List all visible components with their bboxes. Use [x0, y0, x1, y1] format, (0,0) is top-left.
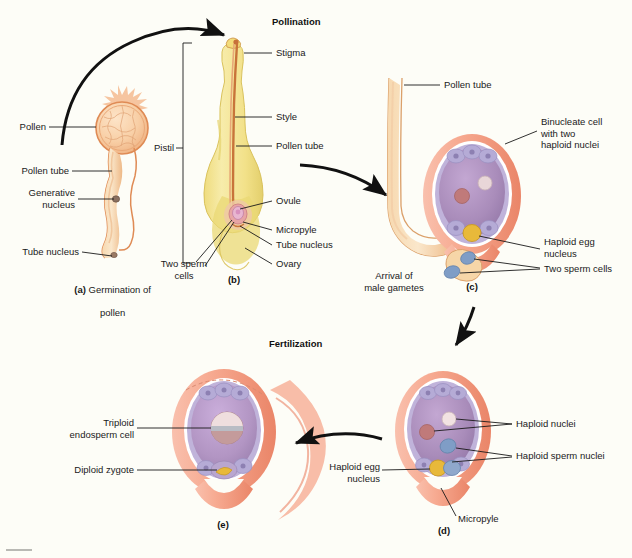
heading-pollination: Pollination — [272, 16, 321, 27]
panel-marker-a: (a) — [74, 284, 86, 295]
caption-panel-a-text: Germination of — [86, 284, 151, 295]
label-binucleate-cell: Binucleate cell with two haploid nuclei — [541, 116, 631, 151]
label-pistil: Pistil — [134, 142, 174, 154]
haploid-nucleus-c-2 — [455, 189, 470, 204]
haploid-nucleus-d-2 — [420, 425, 435, 440]
label-pollen-tube-b: Pollen tube — [276, 140, 324, 152]
label-stigma: Stigma — [276, 47, 306, 59]
label-tube-nucleus-b: Tube nucleus — [276, 239, 333, 251]
label-arrival-of-male-gametes: Arrival of male gametes — [352, 270, 436, 293]
tube-nucleus-marker — [111, 252, 117, 257]
label-haploid-egg-nucleus-d: Haploid egg nucleus — [288, 461, 380, 484]
panel-marker-c: (c) — [448, 281, 496, 292]
caption-panel-a-line2: pollen — [100, 307, 125, 318]
embryo-sac-d — [411, 385, 475, 469]
label-haploid-sperm-nuclei: Haploid sperm nuclei — [516, 450, 605, 462]
triploid-endosperm-cell-e — [211, 412, 243, 444]
label-ovule: Ovule — [276, 195, 301, 207]
label-ovary: Ovary — [276, 258, 301, 270]
label-two-sperm-cells-c: Two sperm cells — [544, 263, 612, 275]
label-pollen-tube: Pollen tube — [0, 165, 69, 177]
label-style: Style — [276, 111, 297, 123]
label-generative-nucleus: Generative nucleus — [0, 187, 75, 210]
panel-marker-e: (e) — [200, 519, 246, 530]
label-pollen: Pollen — [0, 121, 46, 133]
heading-fertilization: Fertilization — [269, 338, 322, 349]
pollen-on-stigma — [233, 39, 238, 44]
haploid-sperm-nucleus-d-2 — [444, 461, 461, 476]
label-micropyle: Micropyle — [276, 224, 317, 236]
footer-rule — [6, 549, 32, 551]
label-tube-nucleus: Tube nucleus — [0, 246, 79, 258]
label-haploid-nuclei: Haploid nuclei — [516, 418, 576, 430]
panel-marker-d: (d) — [422, 525, 466, 536]
panel-marker-b: (b) — [206, 274, 262, 285]
haploid-egg-nucleus-c — [463, 225, 481, 242]
label-haploid-egg-nucleus-c: Haploid egg nucleus — [544, 236, 630, 259]
label-micropyle-d: Micropyle — [458, 513, 499, 525]
label-diploid-zygote: Diploid zygote — [36, 464, 134, 476]
haploid-nucleus-c-1 — [478, 176, 492, 190]
label-pollen-tube-c: Pollen tube — [444, 79, 492, 91]
label-triploid-endosperm-cell: Triploid endosperm cell — [36, 417, 134, 440]
haploid-nucleus-d-1 — [442, 412, 456, 426]
ovule-b — [224, 200, 252, 230]
